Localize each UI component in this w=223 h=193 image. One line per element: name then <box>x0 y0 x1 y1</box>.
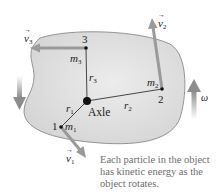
figure-caption: Each particle in the object has kinetic … <box>100 154 223 190</box>
velocity-3-label: v3 <box>24 33 32 46</box>
velocity-1-subscript: 1 <box>71 158 75 166</box>
mass-1-label: m1 <box>65 121 76 134</box>
caption-line: Each particle in the object <box>100 154 223 166</box>
mass-2-label: m2 <box>147 77 158 90</box>
particle-3-dot <box>84 46 88 50</box>
particle-3-number: 3 <box>82 34 88 45</box>
mass-1-subscript: 1 <box>73 126 77 134</box>
velocity-3-subscript: 3 <box>29 38 33 46</box>
particle-1-dot <box>59 125 63 129</box>
velocity-1-symbol: v <box>66 153 71 164</box>
angular-velocity-arrow-icon <box>187 79 201 119</box>
mass-3-label: m3 <box>70 53 81 66</box>
mass-3-subscript: 3 <box>78 58 82 66</box>
velocity-2-symbol: v <box>158 18 163 29</box>
particle-2-number: 2 <box>158 94 164 105</box>
mass-2-symbol: m <box>147 76 155 88</box>
rotation-arrow-left-icon <box>13 76 26 110</box>
particle-2-dot <box>160 87 164 91</box>
omega-label: ω <box>201 93 208 103</box>
mass-3-symbol: m <box>70 52 78 64</box>
radius-1-subscript: 1 <box>70 108 74 116</box>
caption-line: object rotates. <box>100 178 223 190</box>
velocity-2-label: v2 <box>158 18 166 31</box>
velocity-3-symbol: v <box>24 33 29 44</box>
velocity-2-subscript: 2 <box>163 23 167 31</box>
particle-1-number: 1 <box>52 121 58 132</box>
mass-1-symbol: m <box>65 120 73 132</box>
radius-2-subscript: 2 <box>128 105 132 113</box>
caption-line: has kinetic energy as the <box>100 166 223 178</box>
axle-dot <box>83 97 91 105</box>
radius-3-subscript: 3 <box>93 77 97 85</box>
axle-label: Axle <box>88 107 110 119</box>
mass-2-subscript: 2 <box>155 82 159 90</box>
radius-1-label: r1 <box>66 103 74 116</box>
velocity-1-label: v1 <box>66 153 74 166</box>
radius-2-label: r2 <box>124 100 132 113</box>
radius-3-label: r3 <box>89 72 97 85</box>
